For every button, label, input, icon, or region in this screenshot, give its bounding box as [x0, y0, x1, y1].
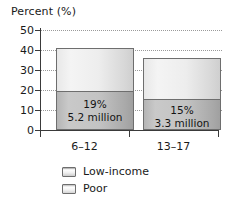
- x-tick-left: [40, 130, 41, 137]
- plot-area: 19% 5.2 million 15% 3.3 million: [40, 30, 222, 130]
- gridline-50: [40, 30, 222, 31]
- legend-swatch-poor-icon: [62, 184, 76, 194]
- y-tick-label-0: 0: [6, 125, 34, 136]
- x-axis-label-6-12: 6–12: [40, 140, 129, 153]
- bar-group-13-17: 15% 3.3 million: [143, 58, 221, 130]
- y-tick-10: [35, 110, 40, 111]
- x-tick-middle: [129, 130, 130, 137]
- bar-group-6-12: 19% 5.2 million: [56, 48, 134, 130]
- y-tick-label-30: 30: [6, 65, 34, 76]
- legend-item-poor[interactable]: Poor: [62, 180, 149, 197]
- bar-segment-low-income-6-12: [56, 48, 134, 92]
- y-tick-label-40: 40: [6, 45, 34, 56]
- x-axis-label-13-17: 13–17: [129, 140, 218, 153]
- y-tick-label-20: 20: [6, 85, 34, 96]
- legend-swatch-low-income-icon: [62, 167, 76, 177]
- y-tick-40: [35, 50, 40, 51]
- percent-stacked-bar-chart: Percent (%) 19% 5.2 million 15% 3.3 mill…: [0, 0, 231, 202]
- y-tick-20: [35, 90, 40, 91]
- y-tick-label-10: 10: [6, 105, 34, 116]
- x-tick-right: [218, 130, 219, 137]
- y-tick-50: [35, 30, 40, 31]
- y-axis-tick-labels: 50 40 30 20 10 0: [0, 0, 34, 202]
- chart-legend: Low-income Poor: [62, 163, 149, 197]
- y-tick-label-50: 50: [6, 25, 34, 36]
- y-axis-spine: [40, 28, 41, 132]
- bar-segment-poor-13-17: [143, 99, 221, 130]
- legend-label-poor: Poor: [83, 182, 107, 195]
- legend-item-low-income[interactable]: Low-income: [62, 163, 149, 180]
- bar-segment-poor-6-12: [56, 91, 134, 130]
- bar-segment-low-income-13-17: [143, 58, 221, 100]
- legend-label-low-income: Low-income: [83, 165, 149, 178]
- y-tick-30: [35, 70, 40, 71]
